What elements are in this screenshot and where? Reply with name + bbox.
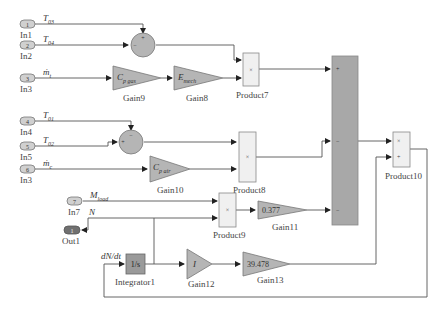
signal-label-t01: T01 (43, 110, 54, 122)
wire-n-out1 (82, 218, 88, 230)
wire-in4-sum2 (35, 121, 131, 130)
inport-in1[interactable]: 1 In1 (20, 20, 35, 40)
product-block-product10[interactable]: × + Product10 (385, 132, 422, 181)
product-block-product9[interactable]: × Product9 (213, 193, 246, 240)
signal-label-t04: T04 (43, 34, 54, 46)
inport-label: In5 (20, 152, 32, 162)
product-block-product8[interactable]: × Product8 (233, 132, 266, 195)
product-symbol: × (246, 154, 249, 160)
product-sign-1: × (397, 138, 400, 144)
signal-label-n: N (88, 207, 96, 217)
inport-number: 1 (26, 22, 29, 28)
integrator-label: Integrator1 (115, 277, 155, 287)
gain-value: 39.478 (247, 260, 269, 269)
inport-label: In1 (20, 30, 32, 40)
gain-value: 0.377 (262, 206, 280, 215)
gain-label: Gain11 (272, 222, 298, 232)
outport-label: Out1 (62, 236, 80, 246)
inport-in6[interactable]: 6 In3 (20, 165, 35, 185)
outport-number: 1 (71, 228, 74, 234)
outport-out1[interactable]: 1 Out1 (62, 226, 80, 246)
inport-number: 7 (73, 199, 76, 205)
signal-label-t03: T03 (43, 13, 54, 25)
signal-label-mt: ṁt (43, 67, 52, 79)
simulink-diagram: T03 T04 ṁt T01 T02 ṁc Mload N dN/dt 1 In… (0, 0, 443, 311)
gain-block-gain12[interactable]: I Gain12 (187, 249, 215, 289)
gain-label: Gain12 (188, 279, 215, 289)
product-label: Product9 (213, 230, 246, 240)
inport-number: 5 (26, 144, 29, 150)
gain-label: Gain9 (123, 93, 145, 103)
gain-block-gain11[interactable]: 0.377 Gain11 (258, 201, 307, 232)
inport-in4[interactable]: 4 In4 (20, 117, 35, 137)
product-label: Product8 (233, 185, 266, 195)
wires (35, 24, 427, 297)
inport-in3[interactable]: 3 In3 (20, 74, 35, 94)
inport-in2[interactable]: 2 In2 (20, 41, 35, 61)
inport-in5[interactable]: 5 In5 (20, 142, 35, 162)
wire-product8-bigsum (256, 141, 330, 157)
product-symbol: × (226, 207, 229, 213)
gain-block-gain10[interactable]: Cp air Gain10 (150, 156, 190, 195)
product-label: Product10 (385, 171, 422, 181)
inport-label: In7 (68, 207, 80, 217)
gain-label: Gain8 (186, 93, 208, 103)
gain-block-gain8[interactable]: Emech Gain8 (174, 66, 223, 103)
inport-label: In3 (20, 84, 32, 94)
wire-in1-sum1 (35, 24, 143, 33)
inport-label: In3 (20, 175, 32, 185)
signal-label-mc: ṁc (43, 158, 53, 170)
integrator-value: 1/s (131, 260, 140, 269)
wire-sum1-product7 (156, 45, 241, 60)
big-sum-block[interactable]: + − − (332, 56, 358, 225)
product-label: Product7 (236, 90, 269, 100)
inport-number: 4 (26, 119, 29, 125)
signal-label-t02: T02 (43, 135, 54, 147)
sum-block-1[interactable]: + − (131, 33, 155, 57)
inport-label: In4 (20, 127, 32, 137)
product-symbol: × (249, 67, 252, 73)
inport-label: In2 (20, 51, 32, 61)
sum-block-2[interactable]: − + (119, 130, 143, 154)
inport-number: 2 (26, 43, 29, 49)
gain-label: Gain13 (257, 275, 284, 285)
inport-number: 3 (26, 76, 29, 82)
gain-block-gain9[interactable]: Cp gas Gain9 (113, 66, 161, 103)
signal-labels: T03 T04 ṁt T01 T02 ṁc Mload N dN/dt (43, 13, 122, 261)
gain-label: Gain10 (157, 185, 184, 195)
signal-label-dndt: dN/dt (101, 251, 122, 261)
inport-in7[interactable]: 7 In7 (67, 197, 82, 217)
signal-label-mload: Mload (89, 190, 109, 202)
gain-block-gain13[interactable]: 39.478 Gain13 (243, 252, 290, 285)
inport-number: 6 (26, 167, 29, 173)
